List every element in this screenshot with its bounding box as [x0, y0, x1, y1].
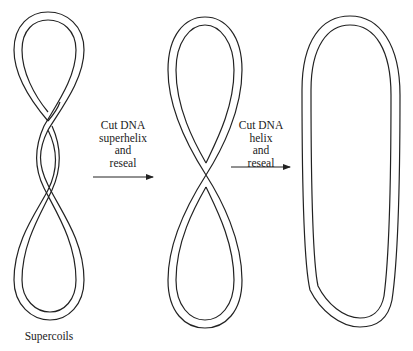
step-1-line-2: superhelix [99, 132, 147, 145]
step-2-line-2: helix [250, 132, 273, 145]
relaxed-dna-shape [302, 16, 400, 327]
step-2-label: Cut DNA helix and reseal [228, 119, 294, 169]
supercoiled-dna-shape [14, 12, 84, 320]
dna-supercoil-diagram [0, 0, 413, 351]
step-2-line-4: reseal [248, 157, 275, 170]
step-1-line-1: Cut DNA [101, 119, 145, 132]
step-2-line-3: and [253, 144, 270, 157]
supercoils-label: Supercoils [14, 330, 84, 343]
step-1-line-3: and [115, 144, 132, 157]
step-1-label: Cut DNA superhelix and reseal [90, 119, 156, 169]
step-2-line-1: Cut DNA [239, 119, 283, 132]
step-1-line-4: reseal [110, 157, 137, 170]
figure-eight-dna-shape [168, 17, 242, 328]
